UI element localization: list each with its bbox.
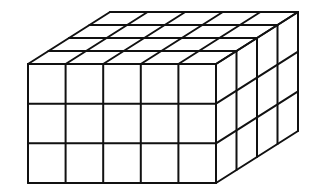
cube-prism-diagram: Rectangular prism built from unit cubes [0, 0, 324, 196]
front-face-grid [28, 64, 216, 183]
prism-drawing [0, 0, 324, 196]
